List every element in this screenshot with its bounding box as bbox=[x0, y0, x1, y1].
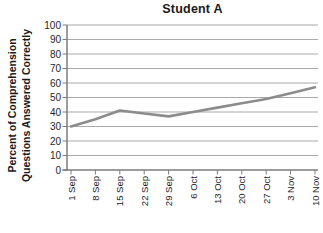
line-chart: Student A Percent of Comprehension Quest… bbox=[0, 0, 323, 233]
y-tick-label-70: 70 bbox=[50, 63, 62, 74]
y-tick-label-60: 60 bbox=[50, 78, 62, 89]
data-line-student-a bbox=[71, 87, 315, 126]
x-tick-label-4: 29 Sep bbox=[163, 176, 174, 206]
x-tick-label-9: 3 Nov bbox=[285, 176, 296, 201]
y-tick-label-100: 100 bbox=[44, 20, 61, 31]
x-tick-label-8: 27 Oct bbox=[261, 176, 272, 204]
x-tick-label-2: 15 Sep bbox=[114, 176, 125, 206]
x-tick-label-6: 13 Oct bbox=[212, 176, 223, 204]
x-tick-label-3: 22 Sep bbox=[139, 176, 150, 206]
x-tick-label-1: 8 Sep bbox=[90, 176, 101, 201]
y-tick-label-40: 40 bbox=[50, 107, 62, 118]
plot-area: 01020304050607080901001 Sep8 Sep15 Sep22… bbox=[0, 0, 323, 233]
y-tick-label-20: 20 bbox=[50, 136, 62, 147]
y-tick-label-0: 0 bbox=[55, 165, 61, 176]
y-tick-label-10: 10 bbox=[50, 150, 62, 161]
x-tick-label-10: 10 Nov bbox=[310, 176, 321, 206]
y-tick-label-80: 80 bbox=[50, 49, 62, 60]
y-tick-label-90: 90 bbox=[50, 34, 62, 45]
y-tick-label-30: 30 bbox=[50, 121, 62, 132]
y-tick-label-50: 50 bbox=[50, 92, 62, 103]
x-tick-label-5: 6 Oct bbox=[188, 176, 199, 199]
x-tick-label-0: 1 Sep bbox=[66, 176, 77, 201]
x-tick-label-7: 20 Oct bbox=[236, 176, 247, 204]
